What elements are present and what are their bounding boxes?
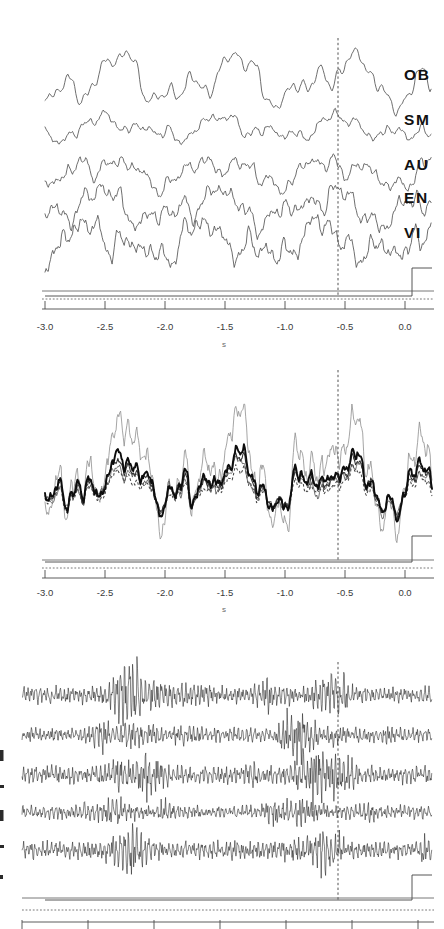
panel-top-svg: -3.0 -2.5 -2.0 -1.5 -1.0 -0.5 0.0 s OB S… [0,0,444,370]
xtick-label: -2.5 [97,587,113,598]
panel-mid-svg: -3.0 -2.5 -2.0 -1.5 -1.0 -0.5 0.0 s [0,370,444,632]
xtick-label: -2.0 [157,321,173,332]
channel-label-vi: VI [404,224,422,241]
trace-AU [45,154,431,197]
panel-raw-traces [0,632,444,929]
xtick-label: -1.5 [217,321,233,332]
xtick-label: -2.5 [97,321,113,332]
trace-OB [45,48,431,116]
xtick-label: -3.0 [37,321,53,332]
overlay-trace-1 [45,444,432,521]
channel-label-au: AU [404,156,430,173]
top-axis: -3.0 -2.5 -2.0 -1.5 -1.0 -0.5 0.0 s [37,301,434,349]
xtick-label: -3.0 [37,587,53,598]
channel-label-sm: SM [404,111,430,128]
xtick-label: -1.5 [217,587,233,598]
xtick-label: -0.5 [337,321,353,332]
raw-trace-5 [22,823,432,878]
left-edge-label-fragments [0,750,4,879]
x-axis-ticks [22,920,418,929]
top-traces [45,48,431,272]
panel-envelope-traces: -3.0 -2.5 -2.0 -1.5 -1.0 -0.5 0.0 s OB S… [0,0,444,370]
xtick-label: -1.0 [277,321,293,332]
panel-overlay-traces: -3.0 -2.5 -2.0 -1.5 -1.0 -0.5 0.0 s [0,370,444,632]
overlay-trace-3 [45,404,432,543]
raw-trace-1 [22,657,432,727]
raw-trace-2 [22,708,432,765]
trigger-step [45,536,432,562]
channel-labels: OB SM AU EN VI [404,66,430,241]
mid-traces [45,404,432,543]
figure-root: -3.0 -2.5 -2.0 -1.5 -1.0 -0.5 0.0 s OB S… [0,0,444,929]
bot-axis [22,920,434,929]
channel-label-ob: OB [404,66,430,83]
xtick-label: 0.0 [398,321,411,332]
trace-EN [45,184,431,239]
mid-axis: -3.0 -2.5 -2.0 -1.5 -1.0 -0.5 0.0 s [37,570,434,614]
xtick-label: -2.0 [157,587,173,598]
xtick-label: -1.0 [277,587,293,598]
x-axis-title: s [222,605,226,614]
channel-label-en: EN [404,189,429,206]
trigger-step [45,875,432,900]
trace-SM [45,108,431,144]
x-axis-ticks [45,570,405,578]
panel-bot-svg [0,632,444,929]
trace-VI [45,215,431,273]
xtick-label: -0.5 [337,587,353,598]
raw-trace-3 [22,748,432,810]
raw-trace-4 [22,797,432,827]
trigger-step [45,268,432,296]
x-axis-ticks [45,301,405,309]
bot-traces [22,657,432,879]
xtick-label: 0.0 [398,587,411,598]
x-axis-title: s [222,340,226,349]
